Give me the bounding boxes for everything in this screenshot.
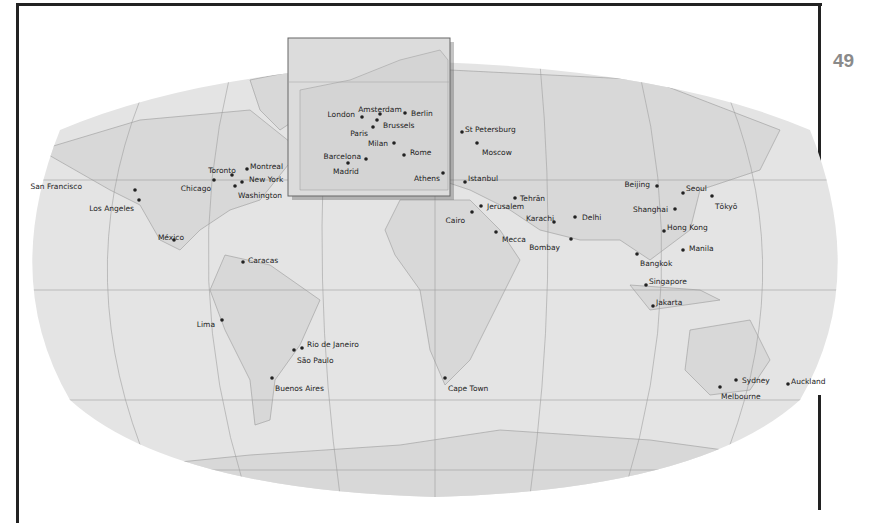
city-marker xyxy=(635,252,639,256)
city-label: Los Angeles xyxy=(89,204,134,213)
inset-city-label: Milan xyxy=(368,139,388,148)
city-marker xyxy=(212,178,216,182)
city-marker xyxy=(133,188,137,192)
city-marker xyxy=(494,230,498,234)
city-marker xyxy=(240,180,244,184)
city-marker xyxy=(245,167,249,171)
city-label: Jakarta xyxy=(655,298,682,307)
city-marker xyxy=(673,207,677,211)
city-label: México xyxy=(158,233,185,242)
city-label: Karachi xyxy=(526,214,554,223)
city-label: Bangkok xyxy=(640,259,673,268)
inset-city-label: Brussels xyxy=(383,121,414,130)
inset-city-label: Athens xyxy=(414,174,440,183)
city-label: Shanghai xyxy=(633,205,668,214)
city-marker xyxy=(569,237,573,241)
city-label: Cape Town xyxy=(448,384,489,393)
city-label: Istanbul xyxy=(468,174,498,183)
city-label: Rio de Janeiro xyxy=(307,340,359,349)
city-marker xyxy=(443,376,447,380)
city-label: Mecca xyxy=(502,235,526,244)
city-marker xyxy=(300,346,304,350)
city-marker xyxy=(479,204,483,208)
inset-city-marker xyxy=(360,115,364,119)
inset-city-label: Paris xyxy=(350,129,368,138)
inset-city-marker xyxy=(441,171,445,175)
city-label: Bombay xyxy=(529,243,560,252)
city-marker xyxy=(463,180,467,184)
city-label: Cairo xyxy=(446,216,466,225)
city-marker xyxy=(241,260,245,264)
city-marker xyxy=(655,184,659,188)
city-marker xyxy=(137,198,141,202)
inset-city-marker xyxy=(371,125,375,129)
city-label: Beijing xyxy=(624,180,650,189)
inset-city-label: Madrid xyxy=(333,167,359,176)
city-label: Toronto xyxy=(207,166,236,175)
city-marker xyxy=(651,304,655,308)
city-marker xyxy=(662,229,666,233)
inset-city-label: Barcelona xyxy=(324,152,361,161)
city-marker xyxy=(718,385,722,389)
inset-city-marker xyxy=(402,153,406,157)
city-marker xyxy=(292,348,296,352)
inset-city-label: London xyxy=(328,110,356,119)
city-label: San Francisco xyxy=(30,182,82,191)
city-label: Caracas xyxy=(248,256,278,265)
city-marker xyxy=(233,184,237,188)
city-marker xyxy=(786,382,790,386)
city-label: St Petersburg xyxy=(465,125,516,134)
city-marker xyxy=(573,215,577,219)
city-label: Montreal xyxy=(250,162,283,171)
city-label: Singapore xyxy=(649,277,687,286)
city-label: São Paulo xyxy=(297,356,334,365)
inset-city-marker xyxy=(392,141,396,145)
inset-city-marker xyxy=(364,157,368,161)
inset-city-marker xyxy=(375,118,379,122)
city-label: Lima xyxy=(197,320,215,329)
city-marker xyxy=(513,196,517,200)
city-label: Jerusalem xyxy=(486,202,524,211)
city-marker xyxy=(470,210,474,214)
city-marker xyxy=(710,194,714,198)
inset-city-label: Berlin xyxy=(411,109,433,118)
city-marker xyxy=(475,141,479,145)
city-label: Manila xyxy=(689,244,714,253)
inset-city-label: Amsterdam xyxy=(358,105,402,114)
city-label: Washington xyxy=(238,191,282,200)
city-marker xyxy=(220,318,224,322)
city-label: Delhi xyxy=(582,213,601,222)
city-label: Auckland xyxy=(791,377,826,386)
city-marker xyxy=(681,248,685,252)
inset-city-label: Rome xyxy=(410,148,432,157)
city-label: Buenos Aires xyxy=(275,384,324,393)
city-label: Tōkyō xyxy=(714,202,738,211)
city-marker xyxy=(734,378,738,382)
city-label: Sydney xyxy=(742,376,770,385)
city-label: Chicago xyxy=(181,184,212,193)
city-label: Melbourne xyxy=(721,392,761,401)
city-label: Moscow xyxy=(482,148,512,157)
city-label: New York xyxy=(249,175,284,184)
city-marker xyxy=(460,130,464,134)
inset-city-marker xyxy=(346,161,350,165)
city-marker xyxy=(681,191,685,195)
city-marker xyxy=(270,376,274,380)
city-label: Hong Kong xyxy=(667,223,708,232)
city-marker xyxy=(644,283,648,287)
inset-city-marker xyxy=(403,111,407,115)
city-label: Seoul xyxy=(686,184,707,193)
